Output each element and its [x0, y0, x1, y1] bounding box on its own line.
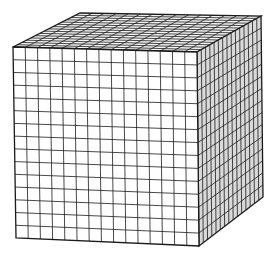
grid-cube-diagram — [0, 0, 278, 258]
cube-front-face — [13, 47, 199, 246]
cube-right-face — [197, 16, 263, 246]
